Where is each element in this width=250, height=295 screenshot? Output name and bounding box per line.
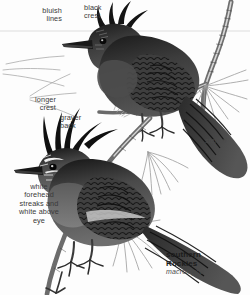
range-label-line2: Rockies	[166, 259, 246, 268]
label-white-forehead-streaks: white forehead streaks and white above e…	[8, 183, 70, 225]
field-guide-plate: bluish lines black crest longer crest gr…	[0, 0, 250, 295]
bird-steller-jay-icon	[62, 1, 247, 178]
label-black-crest: black crest	[84, 4, 126, 21]
range-label-southern-rockies: southern Rockies macrolopha	[166, 250, 246, 277]
label-bluish-lines: bluish lines	[8, 7, 62, 24]
range-label-line1: southern	[166, 250, 246, 259]
label-grayer-back: grayer back	[60, 114, 104, 131]
label-longer-crest: longer crest	[6, 96, 56, 113]
range-label-scientific-name: macrolopha	[166, 268, 246, 276]
label-stelleri-subspecies: stelleri	[205, 137, 249, 145]
